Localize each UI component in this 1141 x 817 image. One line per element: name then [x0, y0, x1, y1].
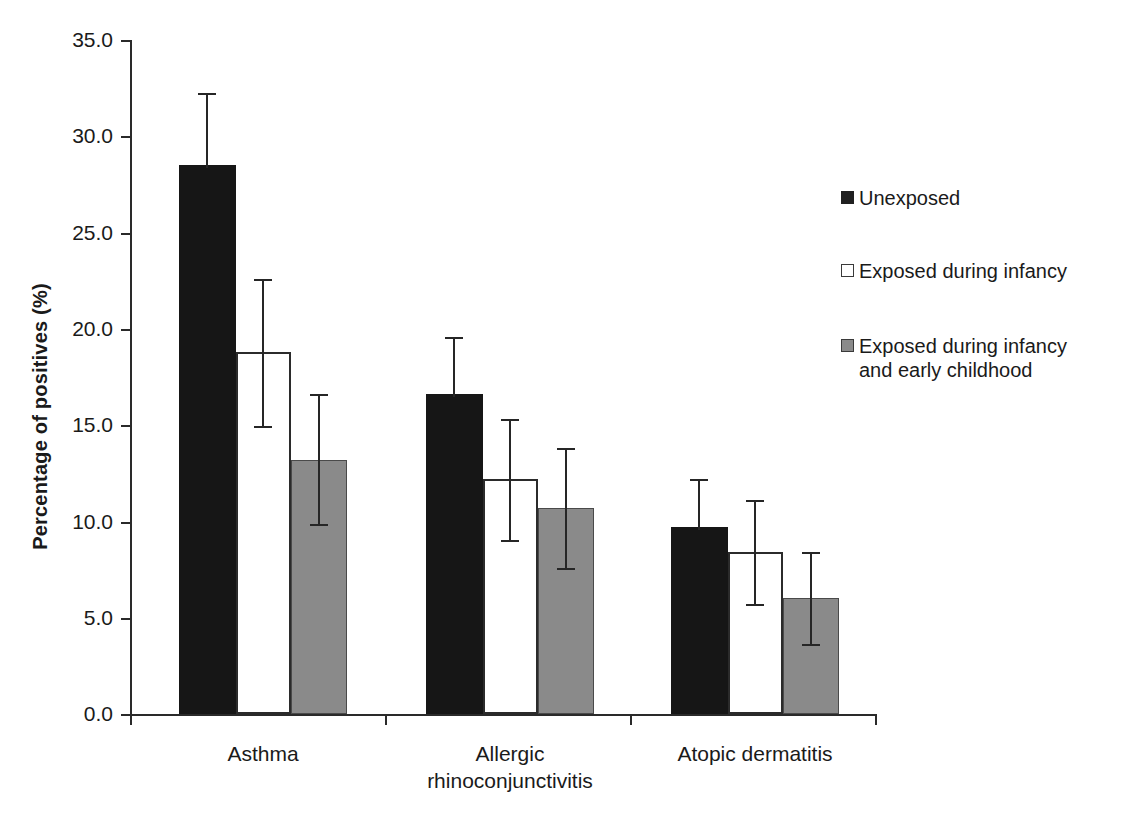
legend-label-exposed-infancy: Exposed during infancy — [859, 259, 1067, 283]
x-category-label-atopic-dermatitis: Atopic dermatitis — [655, 740, 855, 767]
plot-area: 35.0 30.0 25.0 20.0 15.0 10.0 5.0 0.0 — [130, 40, 877, 714]
y-tick-label-35: 35.0 — [72, 28, 113, 52]
legend-item-unexposed: Unexposed — [841, 186, 960, 210]
bar-asthma-unexposed — [179, 165, 236, 714]
y-tick-label-20: 20.0 — [72, 317, 113, 341]
errorcap-atopic-dermatitis-exposed-infancy-top — [746, 500, 764, 502]
errorcap-allergic-rhinoconjunctivitis-exposed-infancy-bottom — [501, 540, 519, 542]
y-tick-10: 10.0 — [121, 522, 130, 524]
y-tick-15: 15.0 — [121, 425, 130, 427]
x-category-label-asthma: Asthma — [173, 740, 353, 767]
legend-swatch-black-icon — [841, 191, 854, 204]
y-tick-label-30: 30.0 — [72, 124, 113, 148]
y-tick-0: 0.0 — [121, 714, 130, 716]
y-axis-title: Percentage of positives (%) — [29, 207, 52, 627]
y-axis-line — [130, 40, 132, 715]
legend-item-exposed-infancy-childhood: Exposed during infancy and early childho… — [841, 334, 1067, 382]
errorcap-atopic-dermatitis-exposed-infancy-childhood-top — [802, 552, 820, 554]
errorbar-asthma-unexposed — [206, 93, 208, 168]
errorbar-atopic-dermatitis-exposed-infancy — [754, 500, 756, 606]
errorcap-allergic-rhinoconjunctivitis-exposed-infancy-top — [501, 419, 519, 421]
errorbar-asthma-exposed-infancy-childhood — [318, 394, 320, 526]
errorcap-asthma-exposed-infancy-top — [254, 279, 272, 281]
x-axis-line — [130, 714, 877, 716]
x-tick-group-1 — [385, 714, 387, 725]
y-tick-label-0: 0.0 — [84, 702, 113, 726]
y-tick-label-25: 25.0 — [72, 221, 113, 245]
legend-label-exposed-infancy-childhood: Exposed during infancy and early childho… — [859, 334, 1067, 382]
y-tick-30: 30.0 — [121, 136, 130, 138]
legend-label-unexposed: Unexposed — [859, 186, 960, 210]
y-tick-5: 5.0 — [121, 618, 130, 620]
legend-swatch-grey-icon — [841, 339, 854, 352]
errorcap-atopic-dermatitis-exposed-infancy-childhood-bottom — [802, 644, 820, 646]
bar-atopic-dermatitis-unexposed — [671, 527, 728, 714]
errorbar-allergic-rhinoconjunctivitis-exposed-infancy — [509, 419, 511, 542]
errorbar-asthma-exposed-infancy — [262, 279, 264, 428]
x-tick-group-2 — [630, 714, 632, 725]
bar-chart-figure: Percentage of positives (%) 35.0 30.0 25… — [0, 0, 1141, 817]
errorcap-asthma-exposed-infancy-childhood-bottom — [310, 524, 328, 526]
errorbar-allergic-rhinoconjunctivitis-exposed-infancy-childhood — [565, 448, 567, 570]
y-tick-label-5: 5.0 — [84, 606, 113, 630]
errorbar-allergic-rhinoconjunctivitis-unexposed — [453, 337, 455, 397]
y-tick-35: 35.0 — [121, 40, 130, 42]
x-category-label-allergic-rhinoconjunctivitis: Allergic rhinoconjunctivitis — [410, 740, 610, 794]
y-tick-label-15: 15.0 — [72, 413, 113, 437]
errorcap-allergic-rhinoconjunctivitis-exposed-infancy-childhood-bottom — [557, 568, 575, 570]
errorcap-atopic-dermatitis-unexposed-top — [690, 479, 708, 481]
x-tick-end — [875, 714, 877, 725]
legend-swatch-white-icon — [841, 264, 854, 277]
errorcap-asthma-unexposed-top — [198, 93, 216, 95]
errorcap-asthma-exposed-infancy-bottom — [254, 426, 272, 428]
errorcap-asthma-exposed-infancy-childhood-top — [310, 394, 328, 396]
bar-allergic-rhinoconjunctivitis-unexposed — [426, 394, 483, 714]
legend-item-exposed-infancy: Exposed during infancy — [841, 259, 1067, 283]
y-tick-25: 25.0 — [121, 233, 130, 235]
errorbar-atopic-dermatitis-unexposed — [698, 479, 700, 530]
x-tick-start — [130, 714, 132, 725]
errorcap-allergic-rhinoconjunctivitis-exposed-infancy-childhood-top — [557, 448, 575, 450]
errorcap-atopic-dermatitis-exposed-infancy-bottom — [746, 604, 764, 606]
errorbar-atopic-dermatitis-exposed-infancy-childhood — [810, 552, 812, 646]
y-tick-20: 20.0 — [121, 329, 130, 331]
errorcap-allergic-rhinoconjunctivitis-unexposed-top — [445, 337, 463, 339]
y-tick-label-10: 10.0 — [72, 510, 113, 534]
